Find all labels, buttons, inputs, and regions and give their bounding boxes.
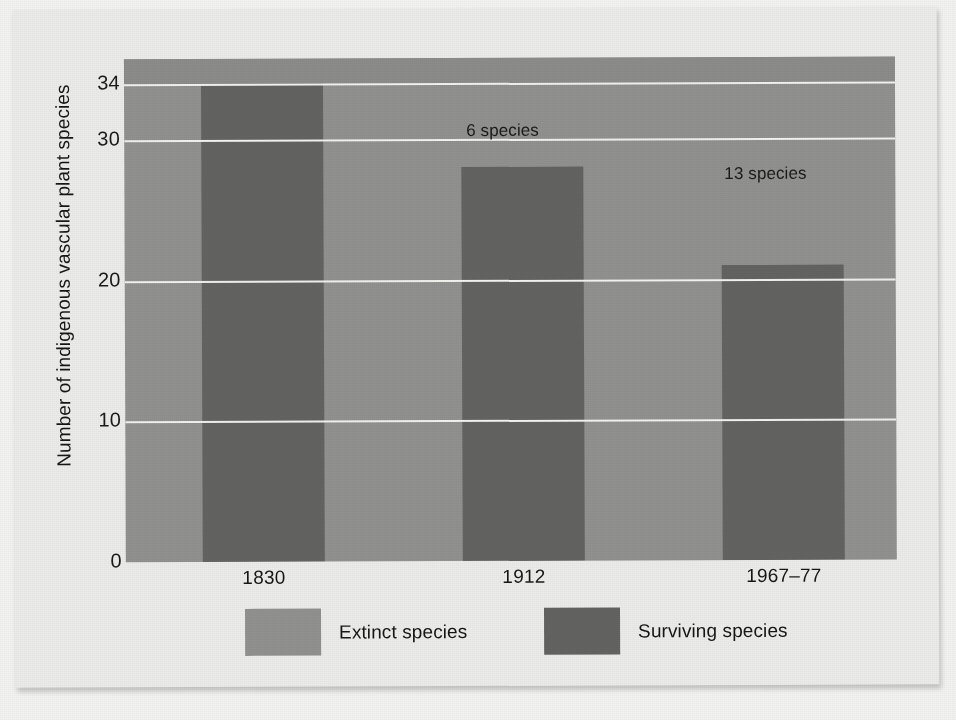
x-label-1967-77: 1967–77: [704, 565, 864, 588]
legend-label-surviving: Surviving species: [638, 619, 788, 642]
chart-legend: Extinct species Surviving species: [126, 606, 897, 665]
scanned-page: Number of indigenous vascular plant spec…: [0, 0, 956, 720]
legend-swatch-extinct-icon: [245, 609, 321, 656]
annotation-1967-77: 13 species: [724, 164, 806, 184]
bar-1830[interactable]: [201, 84, 325, 562]
bar-1912[interactable]: [461, 83, 585, 561]
y-tick-10: 10: [61, 409, 121, 432]
y-tick-34: 34: [60, 71, 120, 94]
legend-swatch-surviving-icon: [544, 607, 620, 654]
y-axis-ticks: 34 30 20 10 0: [48, 59, 122, 562]
legend-entry-surviving[interactable]: Surviving species: [544, 607, 788, 655]
bar-1912-surviving: [461, 167, 585, 561]
legend-entry-extinct[interactable]: Extinct species: [245, 608, 467, 656]
bar-1830-surviving: [201, 84, 325, 562]
y-tick-20: 20: [61, 268, 121, 291]
x-axis-labels: 1830 1912 1967–77: [126, 564, 897, 597]
y-tick-0: 0: [62, 549, 122, 572]
y-tick-30: 30: [60, 128, 120, 151]
x-label-1912: 1912: [444, 566, 604, 589]
plot-headroom-band: [124, 56, 895, 84]
x-label-1830: 1830: [184, 567, 344, 590]
legend-label-extinct: Extinct species: [339, 621, 467, 643]
annotation-1912: 6 species: [466, 121, 539, 141]
bar-1967-77[interactable]: [721, 82, 845, 560]
plot-area: 6 species 13 species: [124, 56, 897, 562]
bar-1967-77-surviving: [722, 264, 845, 560]
figure-panel: Number of indigenous vascular plant spec…: [13, 6, 940, 688]
